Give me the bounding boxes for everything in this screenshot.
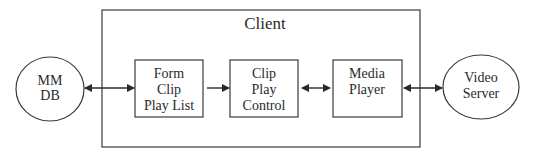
- control-line-2: Play: [252, 82, 277, 97]
- control-line-1: Clip: [252, 66, 276, 81]
- mm-db-line-1: MM: [38, 73, 63, 88]
- client-label: Client: [244, 14, 286, 33]
- video-server-line-1: Video: [464, 70, 497, 85]
- video-server-line-2: Server: [463, 86, 500, 101]
- diagram-canvas: Client MM DB Form Clip Play List Clip Pl…: [0, 0, 535, 154]
- control-line-3: Control: [243, 98, 286, 113]
- form-line-1: Form: [154, 66, 184, 81]
- node-mm-db: MM DB: [16, 57, 84, 121]
- form-line-3: Play List: [144, 98, 194, 113]
- form-line-2: Clip: [157, 82, 181, 97]
- node-video-server: Video Server: [443, 55, 519, 119]
- mm-db-line-2: DB: [40, 88, 59, 103]
- node-clip-play-control: Clip Play Control: [230, 60, 298, 117]
- node-form-clip-play-list: Form Clip Play List: [135, 60, 203, 117]
- node-media-player: Media Player: [333, 60, 402, 117]
- player-line-2: Player: [349, 82, 385, 97]
- player-line-1: Media: [349, 66, 386, 81]
